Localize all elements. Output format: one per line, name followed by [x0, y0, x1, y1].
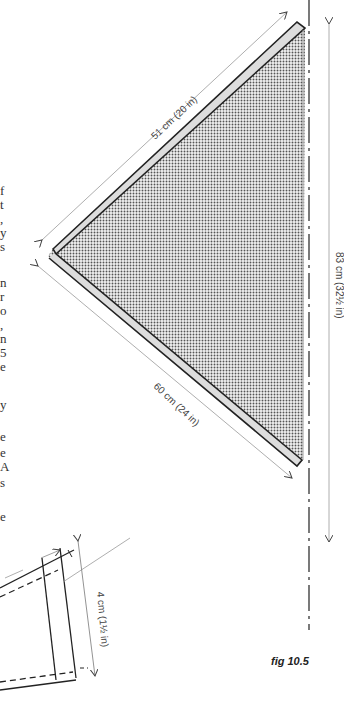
edge-detail-drawing — [0, 538, 130, 690]
pattern-diagram: 51 cm (20 in) 60 cm (24 in) 83 cm (32½ i… — [0, 0, 344, 712]
figure-caption: fig 10.5 — [271, 655, 309, 667]
label-bottom-edge: 60 cm (24 in) — [152, 380, 202, 428]
label-detail-height: 4 cm (1½ in) — [95, 591, 111, 647]
book-page: f t , y s n r o , n 5 e y e e A s e — [0, 0, 344, 712]
label-right-edge: 83 cm (32½ in) — [334, 252, 344, 319]
